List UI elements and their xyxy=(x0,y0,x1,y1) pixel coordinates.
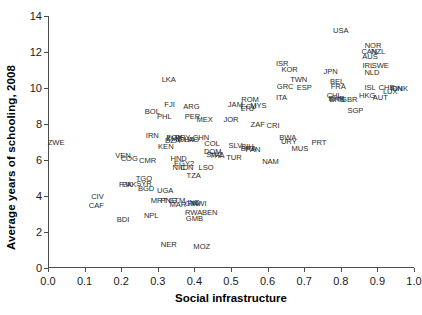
y-tick-label: 10 xyxy=(30,82,42,94)
data-point-label: CMR xyxy=(139,157,156,165)
x-tick-label: 0.5 xyxy=(223,275,238,287)
data-point-label: FRA xyxy=(331,83,346,91)
x-tick-mark xyxy=(231,268,232,272)
y-tick-mark xyxy=(44,232,48,233)
y-tick-label: 2 xyxy=(36,226,42,238)
x-tick-label: 0.9 xyxy=(370,275,385,287)
data-point-label: MOZ xyxy=(193,243,210,251)
data-point-label: FJI xyxy=(164,101,174,109)
y-tick-mark xyxy=(44,16,48,17)
plot-area: 02468101214 0.00.10.20.30.40.50.60.70.80… xyxy=(48,16,414,268)
data-point-label: COG xyxy=(121,155,138,163)
data-point-label: USA xyxy=(333,27,348,35)
data-point-label: FJK xyxy=(119,181,132,189)
x-tick-label: 0.7 xyxy=(297,275,312,287)
x-tick-mark xyxy=(377,268,378,272)
data-point-label: GRC xyxy=(277,83,294,91)
data-point-label: MUS xyxy=(291,145,308,153)
data-point-label: NER xyxy=(161,241,177,249)
x-tick-mark xyxy=(85,268,86,272)
data-point-label: PHL xyxy=(157,113,172,121)
data-point-label: THA xyxy=(210,152,225,160)
x-tick-label: 0.8 xyxy=(333,275,348,287)
x-tick-label: 0.1 xyxy=(77,275,92,287)
data-point-label: SGP xyxy=(347,107,363,115)
data-point-label: GIN xyxy=(185,200,198,208)
data-point-label: BDI xyxy=(117,216,130,224)
data-point-label: URY xyxy=(281,138,297,146)
data-point-label: NLD xyxy=(364,69,379,77)
data-point-label: ZWE xyxy=(48,139,65,147)
data-point-label: IRN xyxy=(146,132,159,140)
data-point-label: ITA xyxy=(276,94,287,102)
data-point-label: TUR xyxy=(226,154,241,162)
x-tick-label: 1.0 xyxy=(406,275,421,287)
data-point-label: LKA xyxy=(162,76,176,84)
x-tick-mark xyxy=(48,268,49,272)
data-point-label: BGD xyxy=(138,185,154,193)
data-point-label: BEN xyxy=(202,209,217,217)
data-point-label: GMB xyxy=(186,215,203,223)
y-tick-mark xyxy=(44,52,48,53)
x-tick-label: 0.3 xyxy=(150,275,165,287)
y-tick-label: 14 xyxy=(30,10,42,22)
x-tick-label: 0.4 xyxy=(187,275,202,287)
y-tick-mark xyxy=(44,160,48,161)
y-tick-mark xyxy=(44,196,48,197)
data-point-label: NPL xyxy=(144,212,159,220)
x-tick-label: 0.2 xyxy=(114,275,129,287)
data-point-label: KOR xyxy=(281,66,297,74)
x-tick-label: 0.6 xyxy=(260,275,275,287)
data-point-label: LSO xyxy=(199,164,214,172)
y-tick-label: 8 xyxy=(36,118,42,130)
data-point-label: NAM xyxy=(262,158,279,166)
data-point-label: AUT xyxy=(373,94,388,102)
x-tick-mark xyxy=(158,268,159,272)
data-point-label: GBR xyxy=(341,96,357,104)
data-point-label: MYS xyxy=(250,102,266,110)
x-axis-title: Social infrastructure xyxy=(48,292,414,304)
data-point-label: ARG xyxy=(183,103,199,111)
x-tick-label: 0.0 xyxy=(40,275,55,287)
data-point-label: MEX xyxy=(196,116,212,124)
data-point-label: PAN xyxy=(246,146,261,154)
x-tick-mark xyxy=(304,268,305,272)
y-tick-label: 4 xyxy=(36,190,42,202)
y-tick-label: 12 xyxy=(30,46,42,58)
x-tick-mark xyxy=(341,268,342,272)
x-tick-mark xyxy=(414,268,415,272)
y-tick-label: 6 xyxy=(36,154,42,166)
data-point-label: ZAF xyxy=(251,121,265,129)
y-tick-mark xyxy=(44,124,48,125)
data-point-label: CAF xyxy=(89,202,104,210)
y-tick-mark xyxy=(44,88,48,89)
y-tick-label: 0 xyxy=(36,262,42,274)
data-point-label: JPN xyxy=(323,68,337,76)
data-point-label: MAR xyxy=(170,201,187,209)
x-tick-mark xyxy=(194,268,195,272)
data-point-label: CRI xyxy=(267,122,280,130)
data-point-label: ESP xyxy=(297,84,312,92)
y-axis-title: Average years of schooling, 2008 xyxy=(0,0,22,315)
data-point-label: UGA xyxy=(157,187,173,195)
x-tick-mark xyxy=(121,268,122,272)
data-point-label: PRT xyxy=(311,139,326,147)
data-point-label: JOR xyxy=(223,116,238,124)
data-point-label: TZA xyxy=(187,172,201,180)
data-point-label: CIV xyxy=(91,193,104,201)
data-point-label: KEN xyxy=(158,143,173,151)
x-tick-mark xyxy=(268,268,269,272)
